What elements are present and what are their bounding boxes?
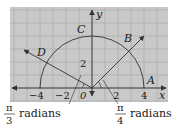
angle-right-num: π [117, 102, 124, 113]
angle-label-right: π 4 radians [115, 102, 172, 126]
angle-left-den: 3 [6, 115, 12, 126]
x-tick-2: 2 [113, 90, 119, 101]
angle-left-unit: radians [19, 107, 61, 120]
origin-label: 0 [80, 90, 87, 101]
point-label-d: D [36, 46, 46, 59]
point-label-c: C [77, 23, 86, 36]
x-axis-label: x [159, 89, 166, 102]
x-tick-4: 4 [141, 90, 147, 101]
unit-circle-diagram: C B D A y x 0 −4 −2 2 4 2 π 3 radians π … [0, 0, 178, 128]
x-tick-neg4: −4 [29, 90, 44, 101]
angle-right-den: 4 [117, 115, 123, 126]
angle-label-left: π 3 radians [4, 102, 61, 126]
point-label-a: A [146, 74, 155, 87]
angle-left-num: π [6, 102, 13, 113]
point-label-b: B [123, 32, 132, 45]
y-axis-label: y [95, 8, 103, 21]
x-tick-neg2: −2 [55, 90, 70, 101]
angle-right-unit: radians [130, 107, 172, 120]
y-tick-2: 2 [80, 58, 86, 69]
